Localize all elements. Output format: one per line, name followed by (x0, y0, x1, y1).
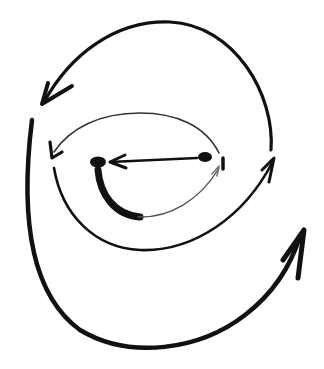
left-dot (90, 157, 106, 168)
loop-diagram (0, 0, 324, 369)
center-straight-arrow (110, 155, 197, 168)
diagram-canvas (0, 0, 324, 369)
inner-loop-arrow (98, 158, 223, 217)
middle-bottom-loop-arrow (54, 158, 274, 250)
outer-big-loop-arrow (28, 120, 304, 348)
middle-top-arc-arrow (50, 113, 219, 158)
right-dot (198, 152, 212, 162)
